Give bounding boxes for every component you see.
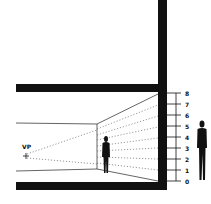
vp-label: VP	[22, 143, 32, 150]
person-silhouette-reference	[197, 121, 207, 181]
scale-label-7: 7	[185, 101, 189, 108]
perspective-diagram: VP 0 1 2 3 4 5 6 7 8	[0, 0, 211, 204]
scale-labels: 0 1 2 3 4 5 6 7 8	[185, 90, 189, 185]
perspective-guides	[27, 105, 158, 170]
person-silhouette-room	[102, 136, 110, 173]
vanishing-point: VP	[22, 143, 32, 159]
vertical-wall	[158, 0, 167, 190]
scale-label-5: 5	[185, 123, 189, 130]
floor-slab	[16, 182, 167, 190]
scale-label-2: 2	[185, 156, 189, 163]
scale-label-0: 0	[185, 178, 189, 185]
scale-label-6: 6	[185, 112, 189, 119]
height-scale	[167, 93, 181, 181]
scale-label-3: 3	[185, 145, 189, 152]
scale-label-4: 4	[185, 134, 189, 141]
scale-label-1: 1	[185, 167, 189, 174]
room-outline	[16, 94, 158, 181]
scale-label-8: 8	[185, 90, 189, 97]
ceiling-slab	[16, 84, 166, 92]
